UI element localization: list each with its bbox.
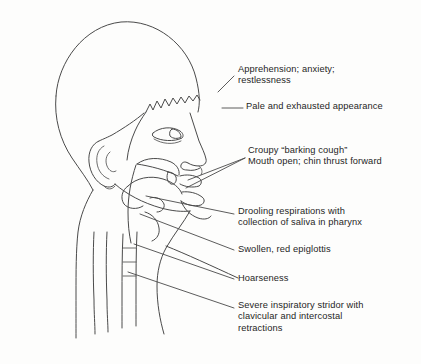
callout-label-layer: Apprehension; anxiety; restlessness Pale… — [0, 0, 421, 364]
callout-croupy-cough: Croupy “barking cough” Mouth open; chin … — [248, 145, 382, 168]
callout-pale-appearance: Pale and exhausted appearance — [246, 101, 383, 112]
callout-inspiratory-stridor: Severe inspiratory stridor with clavicul… — [238, 300, 364, 334]
callout-hoarseness: Hoarseness — [238, 273, 289, 284]
callout-drooling: Drooling respirations with collection of… — [238, 206, 362, 229]
callout-apprehension: Apprehension; anxiety; restlessness — [238, 64, 335, 87]
epiglottitis-figure: Apprehension; anxiety; restlessness Pale… — [0, 0, 421, 364]
callout-swollen-epiglottis: Swollen, red epiglottis — [238, 244, 331, 255]
